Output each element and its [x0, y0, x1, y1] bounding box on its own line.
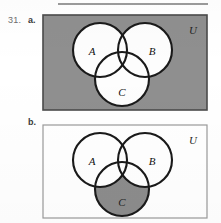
previous-figure-border	[58, 3, 208, 5]
universe-label-b: U	[189, 134, 198, 146]
part-label-a: a.	[28, 15, 36, 25]
part-label-b: b.	[28, 117, 36, 127]
venn-diagram-a: A B C U	[42, 14, 208, 111]
set-label-b: B	[149, 155, 156, 167]
set-label-b: B	[149, 45, 156, 57]
venn-diagram-b: A B C U	[42, 124, 208, 219]
exercise-number: 31.	[8, 15, 21, 25]
universe-label-a: U	[189, 24, 198, 36]
set-label-a: A	[88, 155, 96, 167]
set-label-a: A	[88, 45, 96, 57]
set-label-c: C	[118, 86, 126, 98]
set-label-c: C	[118, 196, 126, 208]
